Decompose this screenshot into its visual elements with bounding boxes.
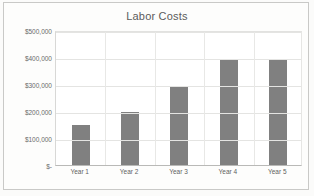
bar[interactable] [72,125,90,165]
gridline [56,32,301,33]
y-axis: $500,000$400,000$300,000$200,000$100,000… [0,31,52,166]
chart-screenshot: Labor Costs $500,000$400,000$300,000$200… [0,0,314,196]
x-axis-tick-label: Year 4 [203,168,252,175]
bar-slot [155,32,204,165]
x-axis-tick-label: Year 2 [104,168,153,175]
bar-slot [105,32,154,165]
bar[interactable] [220,59,238,165]
gridline [56,59,301,60]
y-axis-tick-label: $500,000 [0,28,52,35]
y-axis-tick-label: $100,000 [0,136,52,143]
chart-title: Labor Costs [4,10,310,22]
bar-slot [56,32,105,165]
gridline [56,113,301,114]
category-separator [105,32,106,165]
bars-layer [56,32,301,165]
y-axis-tick-label: $200,000 [0,109,52,116]
plot-area [55,31,302,166]
category-separator [204,32,205,165]
y-axis-tick-label: $300,000 [0,82,52,89]
x-axis: Year 1Year 2Year 3Year 4Year 5 [55,168,302,184]
bar[interactable] [121,112,139,165]
y-axis-tick-label: $400,000 [0,55,52,62]
category-separator [155,32,156,165]
x-axis-tick-label: Year 3 [154,168,203,175]
bar-slot [204,32,253,165]
category-separator [254,32,255,165]
bar[interactable] [170,86,188,165]
y-axis-tick-label: $- [0,163,52,170]
gridline [56,140,301,141]
x-axis-tick-label: Year 1 [55,168,104,175]
gridline [56,86,301,87]
bar-slot [254,32,303,165]
x-axis-tick-label: Year 5 [253,168,302,175]
